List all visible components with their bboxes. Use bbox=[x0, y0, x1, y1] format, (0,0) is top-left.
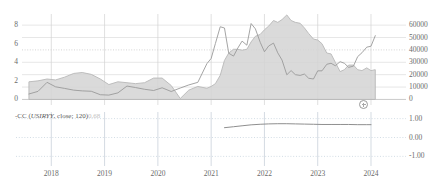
cc-prefix: -CC ( bbox=[15, 112, 31, 120]
y-tick-left-1: 2 bbox=[0, 77, 18, 85]
y-tick-left-4: 8 bbox=[0, 21, 18, 29]
x-tick-2024: 2024 bbox=[351, 170, 391, 178]
y-tick-correlation-2: -1.00 bbox=[409, 152, 441, 160]
x-tick-2021: 2021 bbox=[191, 170, 231, 178]
x-tick-2019: 2019 bbox=[85, 170, 125, 178]
series-label-correlation[interactable]: -CC (USIRYY, close; 120)0.68 bbox=[15, 113, 100, 120]
cc-value: 0.68 bbox=[88, 112, 100, 120]
y-tick-right-4: 40000 bbox=[409, 46, 441, 54]
y-tick-right-3: 30000 bbox=[409, 58, 441, 66]
chart-container: 02468 0100002000030000400005000060000 1.… bbox=[0, 0, 441, 188]
y-tick-right-0: 0 bbox=[409, 95, 441, 103]
plot-series bbox=[29, 15, 375, 128]
y-tick-left-0: 0 bbox=[0, 95, 18, 103]
y-tick-right-1: 10000 bbox=[409, 83, 441, 91]
y-tick-right-6: 60000 bbox=[409, 21, 441, 29]
series-line-correlation bbox=[224, 124, 371, 128]
x-tick-2023: 2023 bbox=[298, 170, 338, 178]
y-tick-left-2: 4 bbox=[0, 58, 18, 66]
crosshair-handle-icon[interactable] bbox=[359, 100, 368, 109]
cc-params: , close; 120) bbox=[54, 112, 88, 120]
x-tick-2022: 2022 bbox=[244, 170, 284, 178]
y-tick-left-3: 6 bbox=[0, 40, 18, 48]
y-tick-correlation-0: 1.00 bbox=[409, 115, 441, 123]
chart-canvas bbox=[0, 0, 441, 188]
y-tick-right-2: 20000 bbox=[409, 71, 441, 79]
cc-symbol: USIRYY bbox=[31, 112, 54, 120]
y-tick-correlation-1: 0.00 bbox=[409, 134, 441, 142]
y-tick-right-5: 50000 bbox=[409, 34, 441, 42]
x-tick-2020: 2020 bbox=[138, 170, 178, 178]
x-tick-2018: 2018 bbox=[31, 170, 71, 178]
